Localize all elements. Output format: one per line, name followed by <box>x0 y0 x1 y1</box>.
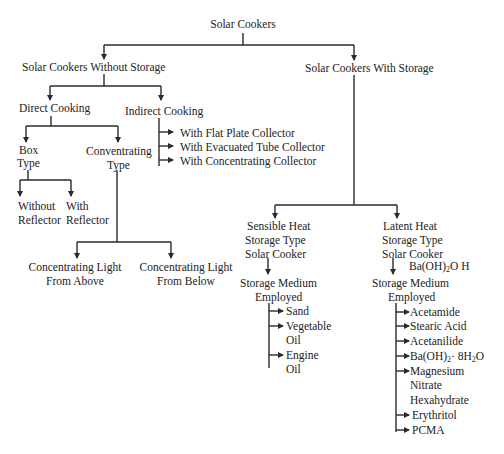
with-storage-node: Solar Cookers With Storage <box>305 61 434 75</box>
latent-item-erythritol: Erythritol <box>412 408 457 422</box>
latent-medium-line1: Storage Medium <box>372 276 449 290</box>
indirect-item-flat-plate: With Flat Plate Collector <box>180 126 295 140</box>
latent-stray-label: Ba(OH)2O H <box>409 259 470 273</box>
sensible-line2: Storage Type <box>245 233 306 247</box>
sensible-line3: Solar Cooker <box>245 247 306 261</box>
direct-cooking-node: Direct Cooking <box>19 101 90 115</box>
concentrating-type-line1: Conventrating <box>86 144 152 158</box>
indirect-cooking-node: Indirect Cooking <box>125 104 203 118</box>
latent-line2: Storage Type <box>382 233 443 247</box>
sensible-item-engine: Engine <box>286 348 319 362</box>
latent-item-stearic-acid: Stearic Acid <box>410 319 467 333</box>
latent-item-nitrate: Nitrate <box>410 378 442 392</box>
from-below-line1: Concentrating Light <box>131 260 241 274</box>
sensible-medium-line1: Storage Medium <box>240 276 317 290</box>
box-type-line1: Box <box>19 143 38 157</box>
sensible-item-sand: Sand <box>286 304 309 318</box>
latent-item-acetamide: Acetamide <box>410 305 460 319</box>
without-reflector-line1: Without <box>18 199 55 213</box>
latent-item-pcma: PCMA <box>412 423 445 437</box>
latent-item-acetanilide: Acetanilide <box>410 334 463 348</box>
root-node: Solar Cookers <box>193 17 293 31</box>
indirect-item-evacuated-tube: With Evacuated Tube Collector <box>180 140 325 154</box>
latent-medium-line2: Employed <box>388 290 435 304</box>
from-above-line1: Concentrating Light <box>20 260 130 274</box>
sensible-medium-line2: Employed <box>255 290 302 304</box>
sensible-line1: Sensible Heat <box>247 219 311 233</box>
latent-item-magnesium: Magnesium <box>410 364 464 378</box>
latent-item-hexahydrate: Hexahydrate <box>410 393 469 407</box>
indirect-item-concentrating: With Concentrating Collector <box>180 154 316 168</box>
from-above-line2: From Above <box>20 274 130 288</box>
latent-line1: Latent Heat <box>383 219 437 233</box>
without-storage-node: Solar Cookers Without Storage <box>22 60 165 74</box>
with-reflector-line2: Reflector <box>66 213 109 227</box>
with-reflector-line1: With <box>66 199 89 213</box>
sensible-item-oil: Oil <box>286 333 301 347</box>
latent-item-barium-hydroxide: Ba(OH)2· 8H2O <box>410 349 484 363</box>
sensible-item-vegetable: Vegetable <box>286 319 331 333</box>
from-below-line2: From Below <box>131 274 241 288</box>
without-reflector-line2: Reflector <box>18 213 61 227</box>
box-type-line2: Type <box>17 156 40 170</box>
concentrating-type-line2: Type <box>107 158 130 172</box>
sensible-item-oil-2: Oil <box>286 362 301 376</box>
